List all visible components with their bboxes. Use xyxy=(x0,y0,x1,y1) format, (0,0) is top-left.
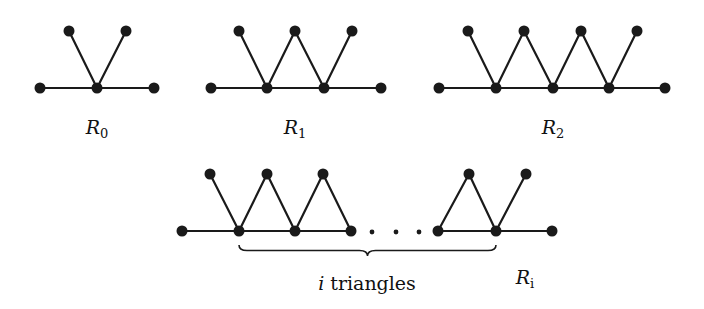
vertex xyxy=(346,226,357,237)
edge xyxy=(267,31,295,88)
vertex xyxy=(121,26,132,37)
edge xyxy=(324,31,352,88)
vertex xyxy=(262,169,273,180)
vertex xyxy=(35,83,46,94)
vertex xyxy=(491,83,502,94)
vertex xyxy=(434,83,445,94)
graph-label-r1: R1 xyxy=(283,116,307,141)
edge xyxy=(469,174,496,231)
graph-ri: i trianglesRi xyxy=(177,169,558,295)
edge xyxy=(609,31,637,88)
edge xyxy=(581,31,609,88)
underbrace xyxy=(239,245,496,256)
vertex xyxy=(433,226,444,237)
edge xyxy=(69,31,97,88)
vertex xyxy=(318,169,329,180)
edge xyxy=(496,31,524,88)
graph-label-r2: R2 xyxy=(541,116,565,141)
graph-r0: R0 xyxy=(35,26,160,142)
vertex xyxy=(576,26,587,37)
edge xyxy=(239,174,267,231)
edge xyxy=(524,31,553,88)
ellipsis-dot xyxy=(394,230,399,235)
brace-label-text: triangles xyxy=(324,272,416,294)
vertex xyxy=(632,26,643,37)
edge xyxy=(295,31,324,88)
vertex xyxy=(491,226,502,237)
edge xyxy=(468,31,496,88)
edge xyxy=(210,174,239,231)
edge xyxy=(438,174,469,231)
vertex xyxy=(521,169,532,180)
graph-r2: R2 xyxy=(434,26,671,142)
vertex xyxy=(205,169,216,180)
graph-r1: R1 xyxy=(206,26,387,142)
ellipsis-dot xyxy=(417,230,422,235)
graph-label-ri: Ri xyxy=(515,266,534,291)
vertex xyxy=(149,83,160,94)
vertex xyxy=(519,26,530,37)
vertex xyxy=(290,226,301,237)
edge xyxy=(97,31,126,88)
vertex xyxy=(262,83,273,94)
vertex xyxy=(319,83,330,94)
vertex xyxy=(347,26,358,37)
graph-family-diagram: R0R1R2i trianglesRi xyxy=(0,0,704,309)
edge xyxy=(553,31,581,88)
graphs-layer: R0R1R2i trianglesRi xyxy=(35,26,671,295)
vertex xyxy=(376,83,387,94)
vertex xyxy=(234,226,245,237)
edge xyxy=(323,174,351,231)
vertex xyxy=(660,83,671,94)
graph-label-r0: R0 xyxy=(85,116,109,141)
vertex xyxy=(604,83,615,94)
vertex xyxy=(177,226,188,237)
vertex xyxy=(547,226,558,237)
vertex xyxy=(548,83,559,94)
brace-label: i triangles xyxy=(318,272,416,294)
vertex xyxy=(64,26,75,37)
vertex xyxy=(463,26,474,37)
vertex xyxy=(92,83,103,94)
vertex xyxy=(206,83,217,94)
vertex xyxy=(234,26,245,37)
vertex xyxy=(290,26,301,37)
ellipsis-dot xyxy=(370,230,375,235)
edge xyxy=(496,174,526,231)
edge xyxy=(295,174,323,231)
vertex xyxy=(464,169,475,180)
edge xyxy=(267,174,295,231)
edge xyxy=(239,31,267,88)
